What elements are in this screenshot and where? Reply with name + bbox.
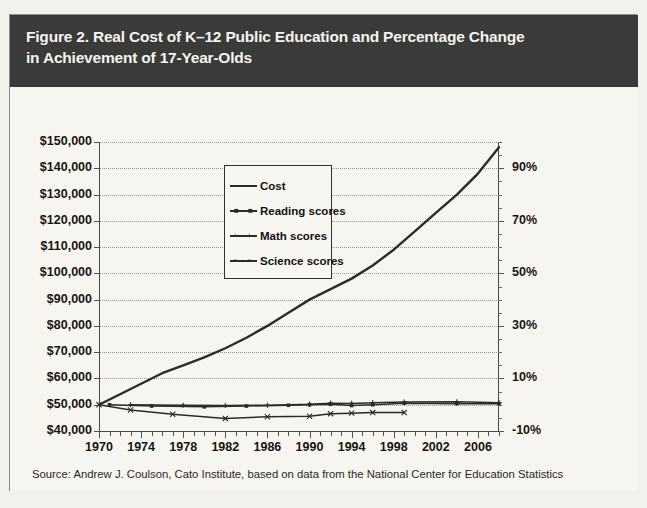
- series-marker: [223, 403, 228, 408]
- legend-item-cost[interactable]: Cost: [230, 173, 326, 198]
- left-axis-tick-label: $80,000: [12, 318, 92, 332]
- figure-page: Figure 2. Real Cost of K–12 Public Educa…: [0, 0, 647, 508]
- left-axis-tick-label: $100,000: [12, 265, 92, 279]
- right-axis-tick-label: 90%: [512, 160, 572, 174]
- plot-area: Cost ■ ■ Reading scores +: [99, 142, 499, 431]
- left-axis-tick-label: $140,000: [12, 160, 92, 174]
- series-marker: [265, 403, 270, 408]
- legend-swatch-reading-scores: ■ ■: [230, 206, 257, 216]
- left-axis-tick-label: $110,000: [12, 239, 92, 253]
- figure-frame: Figure 2. Real Cost of K–12 Public Educa…: [9, 14, 637, 491]
- legend-label-reading-scores: Reading scores: [260, 205, 346, 217]
- x-axis-major-tick: [183, 431, 184, 438]
- x-axis-major-tick: [141, 431, 142, 438]
- x-axis-major-tick: [394, 431, 395, 438]
- x-axis-major-tick: [352, 431, 353, 438]
- source-caption: Source: Andrew J. Coulson, Cato Institut…: [32, 468, 563, 480]
- legend-swatch-science-scores: × ×: [230, 256, 257, 266]
- left-axis-tick-label: $40,000: [12, 423, 92, 437]
- legend-label-math-scores: Math scores: [260, 230, 327, 242]
- legend: Cost ■ ■ Reading scores +: [224, 165, 332, 279]
- left-axis-tick-label: $120,000: [12, 213, 92, 227]
- x-axis-major-tick: [436, 431, 437, 438]
- series-marker: [307, 402, 312, 407]
- left-axis-tick-label: $130,000: [12, 187, 92, 201]
- left-axis-tick-label: $90,000: [12, 292, 92, 306]
- left-axis-tick-label: $50,000: [12, 397, 92, 411]
- right-axis-tick-label: 70%: [512, 213, 572, 227]
- x-axis-major-tick: [267, 431, 268, 438]
- right-axis-tick-label: -10%: [512, 423, 572, 437]
- x-axis-major-tick: [225, 431, 226, 438]
- left-axis-tick-label: $150,000: [12, 134, 92, 148]
- figure-title-line-2: in Achievement of 17-Year-Olds: [26, 47, 622, 68]
- right-axis-tick-label: 50%: [512, 265, 572, 279]
- legend-label-cost: Cost: [260, 180, 286, 192]
- x-axis-major-tick: [99, 431, 100, 438]
- legend-item-reading-scores[interactable]: ■ ■ Reading scores: [230, 198, 326, 223]
- figure-title-line-1: Figure 2. Real Cost of K–12 Public Educa…: [26, 26, 622, 47]
- legend-item-math-scores[interactable]: + + Math scores: [230, 223, 326, 248]
- x-axis-minor-tick: [499, 431, 500, 436]
- series-marker: [128, 402, 133, 407]
- figure-title-banner: Figure 2. Real Cost of K–12 Public Educa…: [10, 15, 638, 87]
- legend-label-science-scores: Science scores: [260, 255, 344, 267]
- left-axis-tick-label: $70,000: [12, 344, 92, 358]
- series-line-science-scores: [99, 405, 404, 419]
- legend-swatch-math-scores: + +: [230, 231, 257, 241]
- legend-swatch-cost: [230, 181, 257, 191]
- chart-area: Cost ■ ■ Reading scores +: [10, 87, 638, 491]
- legend-item-science-scores[interactable]: × × Science scores: [230, 248, 326, 273]
- left-axis-tick-label: $60,000: [12, 370, 92, 384]
- x-axis-tick-label: 2006: [451, 440, 505, 454]
- right-axis-tick-label: 10%: [512, 370, 572, 384]
- right-axis-tick-label: 30%: [512, 318, 572, 332]
- x-axis-major-tick: [478, 431, 479, 438]
- x-axis-major-tick: [310, 431, 311, 438]
